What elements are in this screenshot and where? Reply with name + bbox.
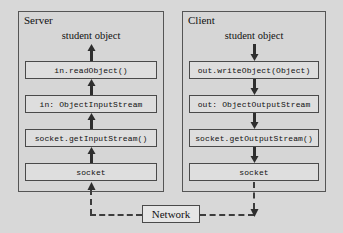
network-link-client-arrowhead [250,208,259,217]
network-link-server-arrowhead [87,182,96,191]
client-box-4-label: socket [239,168,268,177]
diagram-canvas: Server student object in.readObject() in… [0,0,343,233]
client-box-2: out: ObjectOutputStream [189,95,319,113]
client-arrow-from-caption [250,44,259,61]
server-arrow-to-caption [87,44,96,61]
server-box-3-label: socket.getInputStream() [35,134,148,143]
network-link-right-horizontal [200,214,254,216]
server-panel-title: Server [24,14,53,27]
client-arrow-1 [250,79,259,95]
server-box-2: in: ObjectInputStream [25,95,157,113]
server-box-4: socket [25,163,157,181]
network-link-client-vertical [253,182,255,209]
network-link-left-horizontal [90,214,142,216]
client-caption: student object [182,30,326,42]
network-link-server-vertical [90,189,92,215]
server-box-4-label: socket [76,168,105,177]
client-panel-title: Client [188,14,215,27]
client-box-1-label: out.writeObject(Object) [198,66,311,75]
client-box-1: out.writeObject(Object) [189,61,319,79]
client-box-3: socket.getOutputStream() [189,129,319,147]
server-box-1: in.readObject() [25,61,157,79]
server-arrow-2 [87,113,96,129]
client-box-3-label: socket.getOutputStream() [195,134,313,143]
client-box-2-label: out: ObjectOutputStream [198,100,311,109]
client-arrow-2 [250,113,259,129]
client-box-4: socket [189,163,319,181]
server-caption: student object [18,30,164,42]
server-box-3: socket.getInputStream() [25,129,157,147]
server-arrow-1 [87,79,96,95]
client-arrow-3 [250,147,259,163]
server-arrow-3 [87,147,96,163]
network-label: Network [152,208,191,220]
network-box: Network [142,205,200,223]
server-box-1-label: in.readObject() [54,66,128,75]
server-box-2-label: in: ObjectInputStream [40,100,143,109]
